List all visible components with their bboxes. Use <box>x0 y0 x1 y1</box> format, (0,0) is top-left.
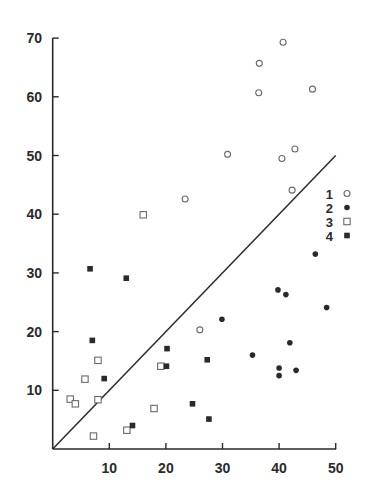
legend-label: 4 <box>326 229 334 244</box>
series-1 <box>182 39 315 333</box>
data-point-filled-square <box>206 416 212 422</box>
legend: 1234 <box>326 187 350 244</box>
y-tick-label: 10 <box>26 382 42 398</box>
data-point-open-circle <box>279 155 285 161</box>
data-point-open-circle <box>292 146 298 152</box>
y-tick-label: 60 <box>26 89 42 105</box>
x-tick-label: 50 <box>328 460 344 476</box>
x-tick-label: 30 <box>215 460 231 476</box>
data-point-filled-circle <box>283 292 289 298</box>
data-point-filled-circle <box>293 368 299 374</box>
legend-label: 3 <box>326 215 333 230</box>
data-point-filled-square <box>164 346 170 352</box>
data-point-filled-circle <box>276 365 282 371</box>
data-point-open-circle <box>197 327 203 333</box>
data-point-open-circle <box>289 187 295 193</box>
data-point-filled-square <box>204 357 210 363</box>
legend-label: 2 <box>326 201 333 216</box>
scatter-chart: 102030405060701020304050 1234 <box>0 0 369 497</box>
data-point-open-circle <box>256 90 262 96</box>
data-point-open-square <box>158 363 164 369</box>
x-tick-label: 20 <box>158 460 174 476</box>
data-point-filled-square <box>190 401 196 407</box>
data-point-filled-circle <box>219 316 225 322</box>
data-point-open-square <box>95 396 101 402</box>
y-tick-label: 40 <box>26 206 42 222</box>
data-point-filled-circle <box>313 251 319 257</box>
series-2 <box>219 251 329 378</box>
data-point-open-circle <box>309 86 315 92</box>
data-point-filled-square <box>123 275 129 281</box>
y-tick-label: 50 <box>26 148 42 164</box>
data-point-open-square <box>124 427 130 433</box>
data-point-open-square <box>95 357 101 363</box>
data-points <box>67 39 329 439</box>
data-point-open-circle <box>225 151 231 157</box>
data-point-open-square <box>90 433 96 439</box>
y-tick-label: 70 <box>26 30 42 46</box>
data-point-filled-circle <box>324 305 330 311</box>
data-point-open-circle <box>182 196 188 202</box>
series-4 <box>87 266 211 428</box>
data-point-filled-square <box>101 376 107 382</box>
y-tick-label: 20 <box>26 324 42 340</box>
axes: 102030405060701020304050 <box>26 30 343 476</box>
data-point-open-square <box>140 212 146 218</box>
data-point-filled-square <box>164 363 170 369</box>
data-point-filled-circle <box>287 340 293 346</box>
y-tick-label: 30 <box>26 265 42 281</box>
data-point-filled-circle <box>276 373 282 379</box>
x-tick-label: 10 <box>102 460 118 476</box>
data-point-open-square <box>151 405 157 411</box>
data-point-filled-square <box>90 338 96 344</box>
legend-marker-open-square <box>344 218 350 224</box>
data-point-open-square <box>82 376 88 382</box>
data-point-open-circle <box>280 39 286 45</box>
data-point-filled-circle <box>250 352 256 358</box>
data-point-filled-square <box>130 423 136 429</box>
data-point-filled-square <box>87 266 93 272</box>
data-point-open-square <box>72 401 78 407</box>
series-3 <box>67 212 164 440</box>
data-point-filled-circle <box>275 287 281 293</box>
legend-marker-filled-square <box>344 233 350 239</box>
legend-label: 1 <box>326 187 333 202</box>
legend-marker-open-circle <box>344 191 350 197</box>
x-tick-label: 40 <box>271 460 287 476</box>
data-point-open-circle <box>256 60 262 66</box>
legend-marker-filled-circle <box>344 205 350 211</box>
